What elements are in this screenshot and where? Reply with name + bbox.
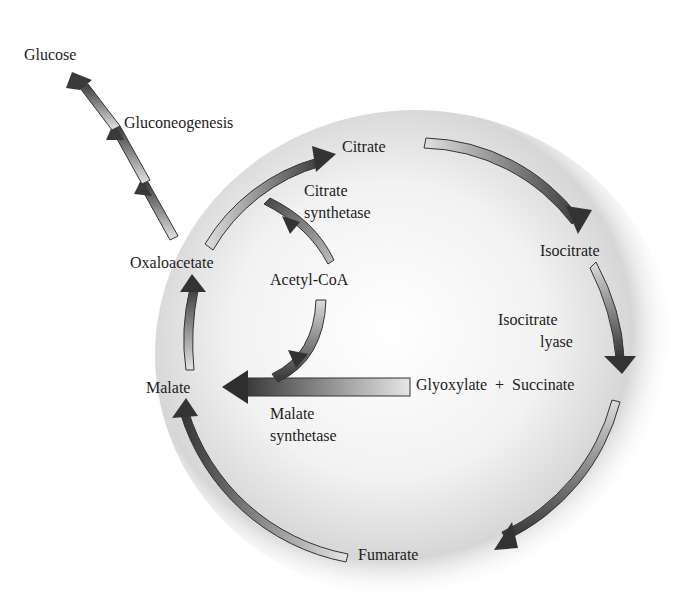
background-circle [155,110,675,600]
label-fumarate: Fumarate [358,546,418,564]
label-glyoxylate-succinate: Glyoxylate + Succinate [416,376,574,394]
label-malate-synthetase-1: Malate [270,405,314,423]
label-acetyl-coa: Acetyl-CoA [270,271,348,289]
label-oxaloacetate: Oxaloacetate [130,254,214,272]
label-citrate-synthetase-1: Citrate [304,182,348,200]
label-citrate-synthetase-2: synthetase [304,204,371,222]
gluconeogenesis-arrow [66,72,178,240]
label-isocitrate-lyase-2: lyase [540,333,573,351]
label-citrate: Citrate [342,138,386,156]
label-malate: Malate [146,379,190,397]
glyoxylate-cycle-diagram [0,0,688,604]
label-gluconeogenesis: Gluconeogenesis [124,114,233,132]
label-glucose: Glucose [24,46,76,64]
label-malate-synthetase-2: synthetase [270,427,337,445]
label-isocitrate: Isocitrate [540,242,600,260]
label-isocitrate-lyase-1: Isocitrate [498,311,558,329]
